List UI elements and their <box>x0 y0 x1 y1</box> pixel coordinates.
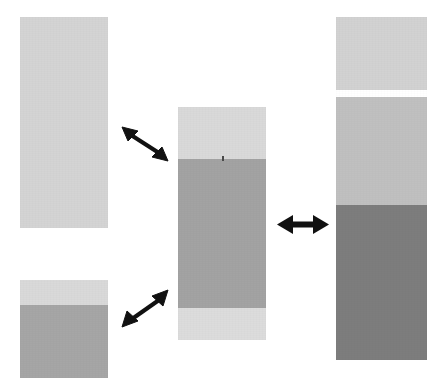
right-bar-segment-dark <box>336 205 427 360</box>
double-arrow-diagonal-up-right-icon <box>120 288 170 330</box>
double-arrow-diagonal-down-right-icon <box>120 124 170 164</box>
right-bar-segment-gap <box>336 90 427 97</box>
bottom-left-bar-segment-light <box>20 280 108 305</box>
middle-bar-segment-light-bottom <box>178 308 266 340</box>
double-arrow-horizontal-icon <box>277 212 329 238</box>
middle-bar <box>178 107 266 340</box>
right-bar-segment-light-top <box>336 17 427 90</box>
bottom-left-bar <box>20 280 108 378</box>
bottom-left-bar-segment-medium <box>20 305 108 378</box>
top-left-bar <box>20 17 108 228</box>
top-left-bar-segment-light <box>20 17 108 228</box>
middle-bar-segment-medium <box>178 159 266 308</box>
middle-bar-boundary-tick <box>222 156 224 161</box>
right-bar-segment-mid-light <box>336 97 427 205</box>
figure-canvas <box>0 0 446 390</box>
middle-bar-segment-light-top <box>178 107 266 159</box>
right-bar <box>336 17 427 360</box>
